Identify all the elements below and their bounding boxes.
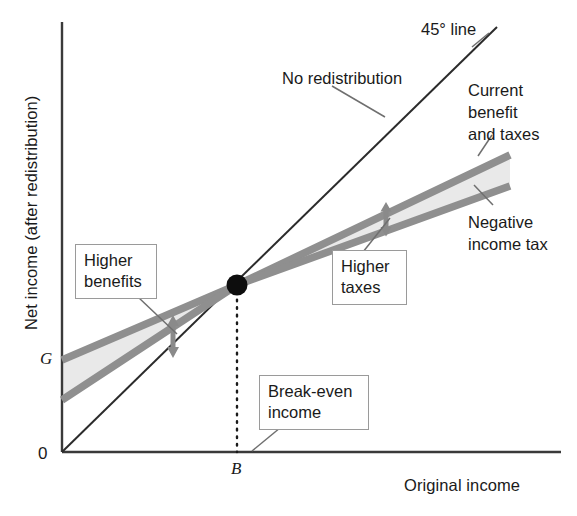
callout-break-even-income: Break-even income — [259, 375, 369, 430]
break-even-point-dot — [227, 275, 248, 296]
x-axis-title: Original income — [404, 476, 520, 495]
x-tick-label-b: B — [231, 459, 241, 479]
origin-tick-label: 0 — [38, 444, 47, 464]
current-benefit-and-taxes-label: Current benefit and taxes — [468, 80, 540, 145]
callout-higher-benefits: Higher benefits — [75, 244, 157, 299]
negative-income-tax-label: Negative income tax — [468, 212, 548, 256]
y-tick-label-g: G — [40, 349, 52, 369]
negative-income-tax-diagram: Net income (after redistribution) Origin… — [0, 0, 577, 516]
callout-higher-taxes: Higher taxes — [332, 250, 407, 305]
leader-line-no-redistribution — [332, 86, 385, 117]
y-axis-title: Net income (after redistribution) — [22, 96, 41, 330]
forty-five-line-label: 45° line — [421, 19, 476, 41]
no-redistribution-label: No redistribution — [282, 68, 402, 90]
